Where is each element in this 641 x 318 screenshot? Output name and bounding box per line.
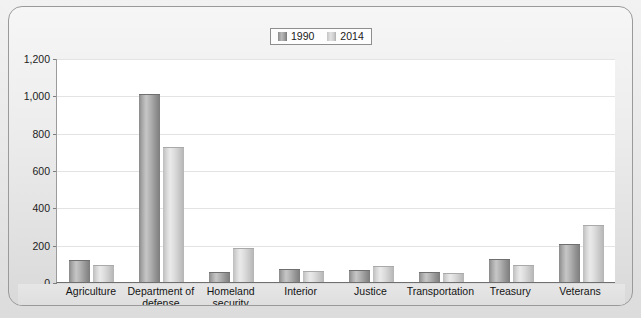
- bar-1990[interactable]: [139, 94, 160, 282]
- bar-2014[interactable]: [233, 248, 254, 282]
- bar-group: [57, 59, 127, 282]
- x-axis-tick-label: Veterans: [539, 285, 621, 297]
- bar-2014[interactable]: [513, 265, 534, 282]
- bar-1990[interactable]: [489, 259, 510, 282]
- legend-label-1990: 1990: [291, 31, 314, 42]
- x-axis-labels: AgricultureDepartment ofdefenseHomelands…: [18, 284, 625, 306]
- legend-label-2014: 2014: [340, 31, 363, 42]
- chart-frame: 1990 2014 02004006008001,0001,200 Agricu…: [0, 0, 641, 318]
- bar-1990[interactable]: [279, 269, 300, 282]
- bar-group: [406, 59, 476, 282]
- y-axis-tick-label: 600: [32, 165, 50, 177]
- bar-2014[interactable]: [93, 265, 114, 282]
- bar-1990[interactable]: [209, 272, 230, 282]
- plot-area: [56, 59, 615, 283]
- y-axis-tick-label: 1,000: [24, 90, 50, 102]
- legend-swatch-2014-icon: [327, 32, 336, 41]
- chart-legend: 1990 2014: [270, 28, 372, 45]
- y-axis-tick-label: 400: [32, 202, 50, 214]
- bar-group: [337, 59, 407, 282]
- bar-group: [476, 59, 546, 282]
- y-axis-tick-label: 800: [32, 128, 50, 140]
- legend-item-2014: 2014: [327, 31, 363, 42]
- bar-group: [127, 59, 197, 282]
- chart-card: 1990 2014 02004006008001,0001,200 Agricu…: [8, 6, 633, 306]
- bar-2014[interactable]: [583, 225, 604, 282]
- bar-group: [546, 59, 616, 282]
- bar-2014[interactable]: [443, 273, 464, 282]
- bar-group: [267, 59, 337, 282]
- y-axis-labels: 02004006008001,0001,200: [9, 59, 53, 283]
- bar-1990[interactable]: [559, 244, 580, 282]
- bar-2014[interactable]: [303, 271, 324, 282]
- legend-item-1990: 1990: [278, 31, 314, 42]
- legend-swatch-1990-icon: [278, 32, 287, 41]
- bar-1990[interactable]: [419, 272, 440, 282]
- bar-2014[interactable]: [163, 147, 184, 282]
- bar-group: [197, 59, 267, 282]
- bar-2014[interactable]: [373, 266, 394, 282]
- y-axis-tick-label: 1,200: [24, 53, 50, 65]
- bar-1990[interactable]: [69, 260, 90, 282]
- y-axis-tick-label: 200: [32, 240, 50, 252]
- bars-container: [57, 59, 615, 282]
- bar-1990[interactable]: [349, 270, 370, 282]
